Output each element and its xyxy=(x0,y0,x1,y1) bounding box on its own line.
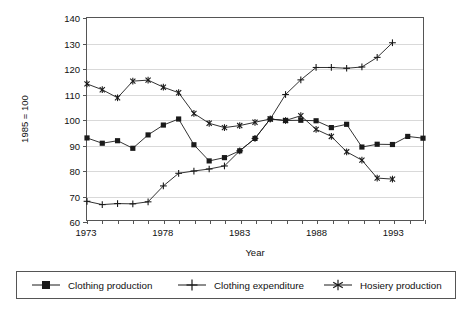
data-point-asterisk xyxy=(115,94,120,101)
y-axis-tick-label: 70 xyxy=(69,191,80,202)
y-axis-tick-label: 130 xyxy=(64,38,80,49)
x-axis-tick xyxy=(102,220,103,224)
x-axis-tick-label: 1988 xyxy=(306,227,327,238)
x-axis-title: Year xyxy=(245,247,264,258)
y-axis-tick-label: 120 xyxy=(64,64,80,75)
x-axis-tick xyxy=(133,220,134,224)
data-point-square xyxy=(207,158,212,163)
data-point-square xyxy=(130,146,135,151)
legend-item-clothing-production: Clothing production xyxy=(17,278,163,292)
x-axis-tick xyxy=(348,220,349,224)
data-point-plus xyxy=(328,64,335,71)
data-point-square xyxy=(329,125,334,130)
data-point-square xyxy=(314,118,319,123)
data-point-asterisk xyxy=(329,133,334,140)
x-axis-tick xyxy=(333,220,334,224)
data-point-asterisk xyxy=(359,157,364,164)
legend-label: Hosiery production xyxy=(360,280,442,291)
data-point-square xyxy=(115,138,120,143)
x-axis-tick-label: 1978 xyxy=(152,227,173,238)
data-point-plus xyxy=(114,200,121,207)
data-point-square xyxy=(375,142,380,147)
data-point-asterisk xyxy=(100,86,105,93)
data-point-square xyxy=(359,144,364,149)
x-axis-tick xyxy=(195,220,196,224)
y-axis-tick-label: 90 xyxy=(69,140,80,151)
data-point-plus xyxy=(129,200,136,207)
x-axis-tick xyxy=(256,220,257,224)
data-point-square xyxy=(390,142,395,147)
square-marker-icon xyxy=(31,278,61,292)
y-axis-tick-label: 140 xyxy=(64,13,80,24)
x-axis-tick xyxy=(302,220,303,224)
data-point-asterisk xyxy=(314,126,319,133)
x-axis-tick xyxy=(241,220,242,224)
data-point-plus xyxy=(206,166,213,173)
data-point-square xyxy=(100,141,105,146)
data-point-square xyxy=(191,142,196,147)
x-axis-tick xyxy=(118,220,119,224)
x-axis-tick xyxy=(271,220,272,224)
plus-marker-icon xyxy=(177,278,207,292)
chart-container: 1985 = 100 60708090100110120130140 19731… xyxy=(0,0,472,311)
x-axis-tick-label: 1983 xyxy=(229,227,250,238)
x-axis-tick-label: 1993 xyxy=(383,227,404,238)
x-axis-tick xyxy=(410,220,411,224)
y-axis-tick-label: 80 xyxy=(69,166,80,177)
x-axis-ticks xyxy=(87,220,423,226)
data-point-plus xyxy=(99,201,106,208)
x-axis-tick xyxy=(317,220,318,224)
series-line xyxy=(87,80,392,179)
data-point-square xyxy=(84,135,89,140)
plot-area: 60708090100110120130140 xyxy=(86,17,424,221)
y-axis-tick-label: 60 xyxy=(69,217,80,228)
data-point-square xyxy=(420,136,425,141)
x-axis-tick xyxy=(394,220,395,224)
data-point-square xyxy=(405,134,410,139)
x-axis-tick-label: 1973 xyxy=(75,227,96,238)
data-point-asterisk xyxy=(298,112,303,119)
x-axis-tick xyxy=(87,220,88,224)
legend: Clothing production Clothing expenditure… xyxy=(16,271,456,299)
x-axis-tick xyxy=(379,220,380,224)
data-point-asterisk xyxy=(176,89,181,96)
x-axis-tick xyxy=(210,220,211,224)
y-axis-title: 1985 = 100 xyxy=(19,95,30,143)
data-point-square xyxy=(344,122,349,127)
data-point-asterisk xyxy=(84,81,89,88)
data-point-plus xyxy=(359,64,366,71)
legend-item-clothing-expenditure: Clothing expenditure xyxy=(163,278,309,292)
x-axis-tick xyxy=(364,220,365,224)
data-point-square xyxy=(176,116,181,121)
y-axis-tick-label: 100 xyxy=(64,115,80,126)
legend-item-hosiery-production: Hosiery production xyxy=(309,278,455,292)
x-axis-tick xyxy=(148,220,149,224)
series-layer xyxy=(87,18,423,220)
asterisk-marker-icon xyxy=(323,278,353,292)
data-point-plus xyxy=(191,168,198,175)
data-point-asterisk xyxy=(344,148,349,155)
x-axis-tick xyxy=(425,220,426,224)
data-point-square xyxy=(146,132,151,137)
y-axis-tick-label: 110 xyxy=(65,89,80,100)
data-point-plus xyxy=(84,198,91,205)
x-axis-tick xyxy=(225,220,226,224)
data-point-asterisk xyxy=(207,120,212,127)
x-axis-tick xyxy=(287,220,288,224)
data-point-asterisk xyxy=(191,110,196,117)
legend-label: Clothing expenditure xyxy=(214,280,304,291)
legend-label: Clothing production xyxy=(68,280,152,291)
x-axis-tick xyxy=(164,220,165,224)
data-point-square xyxy=(222,155,227,160)
data-point-square xyxy=(161,122,166,127)
data-point-asterisk xyxy=(161,84,166,91)
x-axis-tick xyxy=(179,220,180,224)
data-point-plus xyxy=(343,65,350,72)
